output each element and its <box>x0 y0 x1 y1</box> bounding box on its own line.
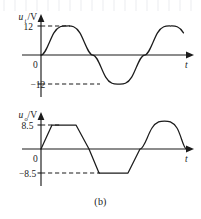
input-x-axis-arrowhead <box>186 52 194 59</box>
output-peak-tick-label: 8.5 <box>22 121 34 131</box>
output-waveform-panel: u o /V 8.5 −8.5 0 t <box>0 104 201 196</box>
output-y-axis-title-main: u <box>19 110 24 120</box>
input-x-axis-title: t <box>185 60 188 70</box>
input-waveform-panel: u i /V 12 −12 0 t <box>0 0 201 104</box>
input-trough-tick-label: −12 <box>31 80 46 90</box>
input-y-axis-title-main: u <box>19 12 24 22</box>
input-zero-label: 0 <box>33 60 38 70</box>
output-y-axis-title-unit: /V <box>28 110 38 120</box>
output-clipped-curve <box>41 121 187 173</box>
output-waveform-plot: u o /V 8.5 −8.5 0 t <box>0 104 201 196</box>
input-y-axis-arrowhead <box>38 14 45 22</box>
output-y-axis-arrowhead <box>38 112 45 120</box>
output-x-axis-title: t <box>185 154 188 164</box>
output-x-axis-arrowhead <box>186 146 194 153</box>
figure-caption-label: (b) <box>94 196 106 207</box>
figure-caption-row: (b) <box>0 196 201 219</box>
input-y-axis-title-unit: /V <box>28 12 38 22</box>
output-trough-tick-label: −8.5 <box>19 169 36 179</box>
waveform-figure: u i /V 12 −12 0 t <box>0 0 201 219</box>
output-zero-label: 0 <box>33 154 38 164</box>
input-waveform-plot: u i /V 12 −12 0 t <box>0 0 201 104</box>
input-peak-tick-label: 12 <box>24 22 34 32</box>
